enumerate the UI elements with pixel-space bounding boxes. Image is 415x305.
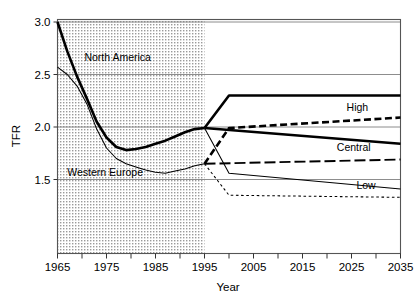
x-tick-label-1995: 1995	[192, 261, 218, 273]
tfr-projection-chart: 19651975198519952005201520252035 3.02.52…	[0, 0, 415, 305]
annotation-north-america: North America	[84, 51, 151, 63]
chart-figure: 19651975198519952005201520252035 3.02.52…	[0, 0, 415, 305]
y-axis-title: TFR	[10, 125, 22, 147]
series-label-central: Central	[337, 141, 371, 153]
x-tick-label-2025: 2025	[339, 261, 365, 273]
x-tick-label-1975: 1975	[94, 261, 120, 273]
y-tick-label-1.5: 1.5	[35, 174, 51, 186]
series-label-low: Low	[356, 179, 376, 191]
series-label-high: High	[347, 101, 369, 113]
annotation-western-europe: Western Europe	[67, 166, 143, 178]
y-tick-label-3.0: 3.0	[35, 16, 51, 28]
x-tick-label-1965: 1965	[45, 261, 71, 273]
x-tick-label-2015: 2015	[290, 261, 316, 273]
y-tick-label-2.5: 2.5	[35, 69, 51, 81]
x-tick-label-2035: 2035	[388, 261, 414, 273]
x-axis-title: Year	[216, 281, 239, 293]
x-tick-label-1985: 1985	[143, 261, 169, 273]
y-tick-label-2.0: 2.0	[35, 121, 51, 133]
x-tick-label-2005: 2005	[241, 261, 267, 273]
